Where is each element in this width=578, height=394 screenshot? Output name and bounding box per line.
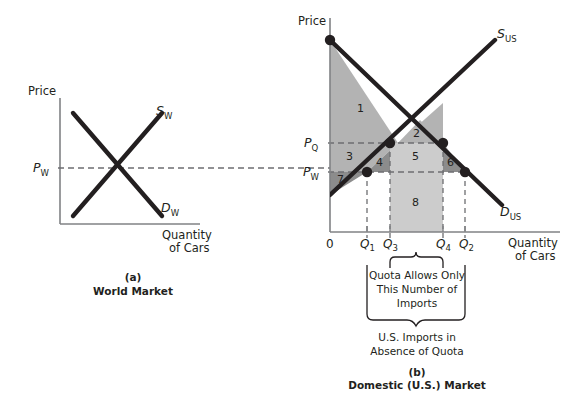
panel-b-demand-label: DUS [500,204,521,222]
q1-label: Q1 [360,237,375,253]
panel-a-x-axis-label-line1: Quantity [162,228,212,242]
shaded-region-1 [330,40,398,143]
q3-label: Q3 [383,237,398,253]
figure-canvas [0,0,578,394]
region-label-3: 3 [346,150,353,163]
panel-a-demand-label: DW [161,200,179,218]
world-price-subscript-b: W [311,172,319,182]
panel-a-supply-label: SW [156,103,172,121]
quota-caption-line2: This Number of [351,283,483,297]
q3-supply-dot [385,138,395,148]
panel-a-supply-letter: S [156,103,164,118]
panel-b-supply-label: SUS [497,26,517,44]
panel-b-origin-label: 0 [326,237,334,251]
region-label-8: 8 [412,196,419,209]
panel-b-supply-subscript: US [505,34,517,44]
region-label-4: 4 [376,156,383,169]
quota-bracket [390,252,443,268]
q4-subscript: 4 [445,243,450,253]
quota-price-label: PQ [304,135,318,153]
q4-label: Q4 [436,237,451,253]
panel-b-demand-subscript: US [510,212,522,222]
q2-subscript: 2 [468,243,473,253]
q1-supply-dot [362,167,372,177]
panel-a-title: World Market [68,285,198,298]
q4-demand-dot [438,138,448,148]
panel-a-demand-subscript: W [171,208,179,218]
panel-b-supply-letter: S [497,26,505,41]
panel-a-price-letter: P [33,160,41,175]
world-price-label-b: PW [303,164,319,182]
imports-caption-line1: U.S. Imports in [351,331,483,345]
region-label-2: 2 [413,127,420,140]
panel-a-y-axis-label: Price [28,84,56,98]
panel-a-x-axis-label-line2: of Cars [169,241,210,255]
panel-a-world-price-label: PW [33,160,49,178]
panel-b-x-axis-label-line2: of Cars [515,249,556,263]
panel-a-supply-subscript: W [164,111,172,121]
panel-a-plot [58,98,330,224]
q3-subscript: 3 [392,243,397,253]
region-label-1: 1 [357,102,364,115]
panel-a-id: (a) [78,271,188,284]
region-label-6: 6 [447,156,454,169]
panel-b-x-axis-label-line1: Quantity [508,236,558,250]
panel-b-title: Domestic (U.S.) Market [339,379,495,392]
quota-price-subscript: Q [312,143,319,153]
quota-price-letter: P [304,135,312,150]
q2-label: Q2 [459,237,474,253]
q2-demand-dot [460,167,470,177]
imports-caption-line2: Absence of Quota [351,345,483,359]
demand-intercept-dot [325,35,335,45]
quota-caption-line3: Imports [351,297,483,311]
panel-b-id: (b) [351,366,483,379]
panel-a-demand-letter: D [161,200,171,215]
region-label-5: 5 [412,150,419,163]
region-label-7: 7 [337,173,344,186]
panel-a-price-subscript: W [41,168,49,178]
quota-caption-line1: Quota Allows Only [351,269,483,283]
panel-b-y-axis-label: Price [298,14,326,28]
world-price-letter-b: P [303,164,311,179]
economics-figure: Price SW DW PW Quantity of Cars (a) Worl… [0,0,578,394]
panel-b-demand-letter: D [500,204,510,219]
q1-subscript: 1 [369,243,374,253]
